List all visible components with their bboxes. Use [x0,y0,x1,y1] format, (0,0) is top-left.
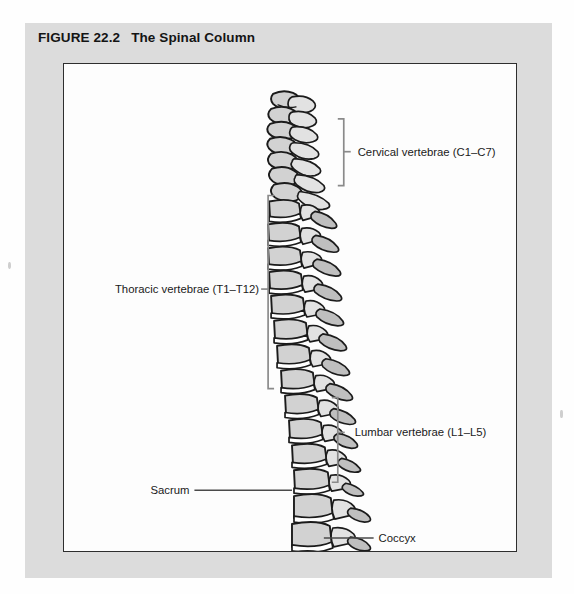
figure-art-box: .bone { fill:#d2d2d2; stroke:#1b1b1b; st… [63,63,517,552]
label-sacrum: Sacrum [150,484,189,496]
figure-title-text: The Spinal Column [131,30,255,45]
scan-speck [8,262,11,269]
scan-speck [560,410,563,418]
cervical-vertebrae-group [267,91,329,209]
thoracic-vertebrae-group [268,200,363,496]
label-lumbar-vertebrae: Lumbar vertebrae (L1–L5) [355,426,487,438]
figure-number: FIGURE 22.2 [38,30,120,45]
spinal-column-illustration: .bone { fill:#d2d2d2; stroke:#1b1b1b; st… [64,64,516,551]
label-coccyx: Coccyx [379,532,416,544]
figure-page: FIGURE 22.2The Spinal Column .bone { fil… [0,0,574,594]
label-thoracic-vertebrae: Thoracic vertebrae (T1–T12) [115,283,259,295]
figure-title: FIGURE 22.2The Spinal Column [38,30,255,45]
lumbar-vertebrae-group [289,494,370,551]
cervical-bracket [338,119,351,186]
figure-panel: FIGURE 22.2The Spinal Column .bone { fil… [25,23,552,578]
label-cervical-vertebrae: Cervical vertebrae (C1–C7) [358,146,496,158]
